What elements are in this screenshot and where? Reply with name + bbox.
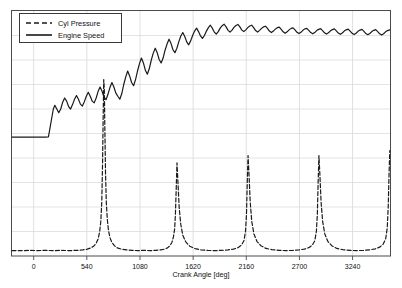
chart-figure: 054010801620216027003240 Crank Angle [de…	[0, 0, 402, 288]
x-tick-label-4: 2160	[238, 263, 254, 270]
x-tick-label-3: 1620	[185, 263, 201, 270]
legend-label-engine-speed: Engine Speed	[58, 31, 104, 40]
x-tick-label-1: 540	[81, 263, 93, 270]
x-tick-label-0: 0	[32, 263, 36, 270]
figure-background	[0, 0, 402, 288]
x-tick-label-6: 3240	[345, 263, 361, 270]
x-axis-label: Crank Angle [deg]	[172, 270, 229, 279]
legend-label-cyl-pressure: Cyl Pressure	[58, 19, 100, 28]
x-tick-label-2: 1080	[132, 263, 148, 270]
chart-svg: 054010801620216027003240 Crank Angle [de…	[0, 0, 402, 288]
x-tick-label-5: 2700	[292, 263, 308, 270]
chart-legend: Cyl Pressure Engine Speed	[20, 14, 122, 43]
